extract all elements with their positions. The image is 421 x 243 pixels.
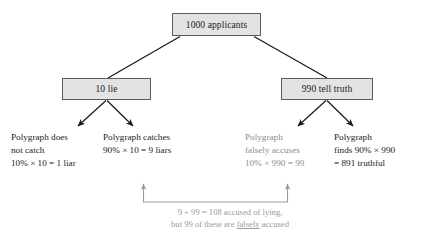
leaf-polygraph-does-not-catch: Polygraph does not catch 10% × 10 = 1 li…: [11, 131, 76, 171]
summary-caption-falsely-underlined: falsely: [237, 219, 260, 229]
node-990-tell-truth: 990 tell truth: [281, 78, 373, 100]
edge-lie-to-caught: [107, 101, 133, 127]
leaf-falsely-accused-line-2: falsely accuses: [245, 144, 304, 157]
summary-caption-line-2-prefix: but 99 of these are: [171, 219, 237, 229]
leaf-found-truthful-line-1: Polygraph: [334, 131, 395, 144]
node-10-lie: 10 lie: [62, 78, 151, 100]
summary-caption: 9 + 99 = 108 accused of lying, but 99 of…: [140, 206, 320, 231]
edge-lie-to-not-caught: [78, 101, 106, 127]
leaf-caught-line-1: Polygraph catches: [103, 131, 171, 144]
leaf-polygraph-finds-truthful: Polygraph finds 90% × 990 = 891 truthful: [334, 131, 395, 171]
edge-truth-to-found-truthful: [327, 101, 353, 127]
summary-caption-line-2: but 99 of these are falsely accused: [140, 218, 320, 230]
leaf-falsely-accused-line-1: Polygraph: [245, 131, 304, 144]
leaf-polygraph-catches: Polygraph catches 90% × 10 = 9 liars: [103, 131, 171, 157]
leaf-polygraph-falsely-accuses: Polygraph falsely accuses 10% × 990 = 99: [245, 131, 304, 171]
leaf-found-truthful-line-3: = 891 truthful: [334, 157, 395, 170]
edge-root-to-truth: [254, 37, 327, 79]
leaf-not-caught-line-3: 10% × 10 = 1 liar: [11, 157, 76, 170]
node-truth-label: 990 tell truth: [302, 84, 352, 94]
summary-caption-line-2-suffix: accused: [260, 219, 289, 229]
summary-caption-line-1: 9 + 99 = 108 accused of lying,: [140, 206, 320, 218]
leaf-caught-line-2: 90% × 10 = 9 liars: [103, 144, 171, 157]
node-1000-applicants: 1000 applicants: [172, 13, 261, 36]
node-root-label: 1000 applicants: [186, 20, 247, 30]
leaf-falsely-accused-line-3: 10% × 990 = 99: [245, 157, 304, 170]
edge-truth-to-falsely-accused: [298, 101, 326, 127]
polygraph-tree-diagram: 1000 applicants 10 lie 990 tell truth Po…: [0, 0, 421, 243]
edge-root-to-lie: [108, 37, 180, 79]
leaf-not-caught-line-1: Polygraph does: [11, 131, 76, 144]
leaf-found-truthful-line-2: finds 90% × 990: [334, 144, 395, 157]
node-lie-label: 10 lie: [96, 84, 118, 94]
leaf-not-caught-line-2: not catch: [11, 144, 76, 157]
